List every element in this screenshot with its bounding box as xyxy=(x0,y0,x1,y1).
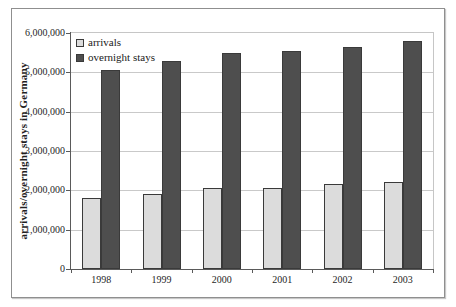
plot-area: arrivals overnight stays xyxy=(70,32,434,270)
bar-overnight-stays-2002 xyxy=(343,47,362,269)
bar-arrivals-1999 xyxy=(143,194,162,269)
y-tick-label: 4,000,000 xyxy=(13,106,65,118)
bar-arrivals-2002 xyxy=(324,184,343,269)
legend-swatch-overnight-stays xyxy=(76,54,84,62)
x-tick-label: 1998 xyxy=(71,274,131,286)
y-tick-label: 0 xyxy=(13,263,65,275)
x-tick-label: 2003 xyxy=(373,274,433,286)
gridline xyxy=(71,151,433,152)
legend-label-arrivals: arrivals xyxy=(88,36,121,49)
bar-arrivals-2001 xyxy=(263,188,282,269)
legend-swatch-arrivals xyxy=(76,39,84,47)
x-tick-mark xyxy=(71,269,72,273)
bar-overnight-stays-1999 xyxy=(162,61,181,269)
x-tick-mark xyxy=(433,269,434,273)
y-tick-mark xyxy=(66,33,70,34)
legend-label-overnight-stays: overnight stays xyxy=(88,51,155,64)
y-tick-mark xyxy=(66,112,70,113)
bar-arrivals-2000 xyxy=(203,188,222,269)
y-tick-mark xyxy=(66,230,70,231)
x-tick-mark xyxy=(252,269,253,273)
x-tick-label: 2001 xyxy=(252,274,312,286)
gridline xyxy=(71,72,433,73)
x-tick-mark xyxy=(312,269,313,273)
y-tick-label: 2,000,000 xyxy=(13,184,65,196)
x-tick-label: 1999 xyxy=(131,274,191,286)
legend-item-arrivals: arrivals xyxy=(76,36,155,49)
x-tick-mark xyxy=(373,269,374,273)
legend-item-overnight-stays: overnight stays xyxy=(76,51,155,64)
gridline xyxy=(71,190,433,191)
bar-arrivals-1998 xyxy=(82,198,101,269)
y-tick-mark xyxy=(66,190,70,191)
y-tick-mark xyxy=(66,72,70,73)
gridline xyxy=(71,112,433,113)
x-tick-mark xyxy=(131,269,132,273)
y-tick-label: 5,000,000 xyxy=(13,66,65,78)
y-tick-mark xyxy=(66,151,70,152)
bar-arrivals-2003 xyxy=(384,182,403,269)
gridline xyxy=(71,230,433,231)
x-tick-label: 2002 xyxy=(312,274,372,286)
legend: arrivals overnight stays xyxy=(76,36,155,64)
x-tick-label: 2000 xyxy=(192,274,252,286)
x-tick-mark xyxy=(192,269,193,273)
chart-frame: arrivals/overnight stays in Germany arri… xyxy=(11,8,445,298)
bar-overnight-stays-2003 xyxy=(403,41,422,269)
y-tick-label: 3,000,000 xyxy=(13,145,65,157)
bar-overnight-stays-2000 xyxy=(222,53,241,269)
bar-overnight-stays-2001 xyxy=(282,51,301,269)
y-tick-label: 1,000,000 xyxy=(13,224,65,236)
bar-overnight-stays-1998 xyxy=(101,70,120,269)
y-tick-mark xyxy=(66,269,70,270)
y-tick-label: 6,000,000 xyxy=(13,27,65,39)
